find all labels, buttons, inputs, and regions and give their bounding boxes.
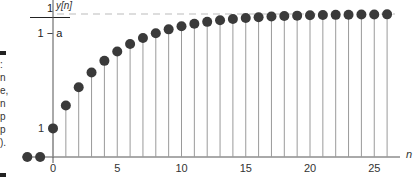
x-tick-label: 0 bbox=[50, 162, 56, 174]
x-tick-label: 10 bbox=[175, 162, 187, 174]
y-tick-label-1: 1 bbox=[38, 122, 44, 134]
stem-plot bbox=[0, 0, 417, 180]
data-point bbox=[61, 101, 71, 111]
data-point bbox=[22, 152, 32, 162]
x-tick-label: 25 bbox=[368, 162, 380, 174]
data-point bbox=[74, 82, 84, 92]
data-point bbox=[331, 10, 341, 20]
data-point bbox=[279, 11, 289, 21]
data-point bbox=[382, 9, 392, 19]
x-axis-label: n bbox=[406, 148, 412, 160]
data-point bbox=[48, 123, 58, 133]
data-point bbox=[202, 17, 212, 27]
data-point bbox=[99, 56, 109, 66]
data-point bbox=[266, 12, 276, 22]
x-tick-label: 15 bbox=[240, 162, 252, 174]
data-point bbox=[305, 10, 315, 20]
data-point bbox=[189, 19, 199, 29]
y-axis-label: y[n] bbox=[56, 0, 72, 11]
data-point bbox=[35, 152, 45, 162]
data-point bbox=[164, 24, 174, 34]
data-point bbox=[356, 10, 366, 20]
data-point bbox=[87, 68, 97, 78]
data-point bbox=[241, 13, 251, 23]
data-point bbox=[228, 14, 238, 24]
data-point bbox=[344, 10, 354, 20]
data-point bbox=[369, 9, 379, 19]
x-tick-label: 20 bbox=[304, 162, 316, 174]
data-point bbox=[151, 28, 161, 38]
data-point bbox=[125, 39, 135, 49]
x-tick-label: 5 bbox=[114, 162, 120, 174]
data-point bbox=[112, 46, 122, 56]
data-point bbox=[292, 11, 302, 21]
data-point bbox=[138, 33, 148, 43]
data-point bbox=[177, 21, 187, 31]
data-point bbox=[254, 12, 264, 22]
data-point bbox=[318, 10, 328, 20]
data-point bbox=[215, 15, 225, 25]
